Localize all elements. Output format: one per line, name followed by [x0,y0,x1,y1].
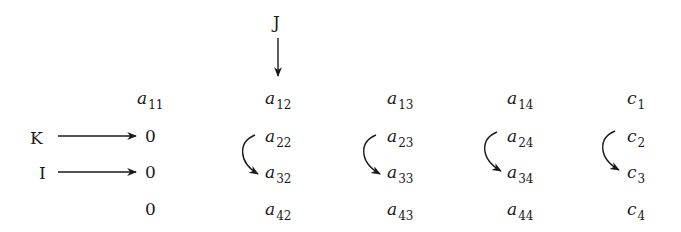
curved-arrow-icon [243,135,258,174]
curved-arrow-icon [485,132,501,171]
curved-arrow-icon [364,135,380,174]
curved-arrow-icon [603,131,619,170]
arrows-overlay [0,0,681,232]
